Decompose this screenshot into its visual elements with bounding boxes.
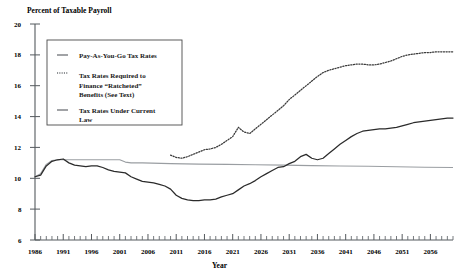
y-tick-label-20: 20 [14,21,22,29]
chart-container: Percent of Taxable Payroll 20 18 16 14 1… [0,0,459,275]
x-tick-label-2016: 2016 [197,248,212,256]
x-tick-label-2021: 2021 [226,248,241,256]
y-tick-label-6: 6 [18,237,22,245]
y-tick-label-14: 14 [14,113,22,121]
x-tick-label-2001: 2001 [113,248,128,256]
legend-label-ratcheted-line1: Tax Rates Required to [79,72,146,80]
x-tick-label-2051: 2051 [395,248,410,256]
y-tick-label-18: 18 [14,51,22,59]
legend-label-current-law-line1: Tax Rates Under Current [79,107,156,115]
x-axis-title: Year [212,261,228,270]
x-tick-label-1986: 1986 [28,248,43,256]
y-tick-label-10: 10 [14,175,22,183]
x-tick-label-2011: 2011 [169,248,183,256]
x-tick-label-2026: 2026 [254,248,269,256]
x-axis: 1986199119962001200620112016202120262031… [28,234,453,270]
y-tick-label-16: 16 [14,82,22,90]
x-tick-label-2036: 2036 [310,248,325,256]
x-tick-label-2056: 2056 [423,248,438,256]
x-tick-label-1996: 1996 [84,248,99,256]
x-tick-label-2041: 2041 [339,248,354,256]
x-axis-minor-ticks [35,234,453,240]
y-axis-title: Percent of Taxable Payroll [27,6,112,15]
legend-label-ratcheted-line2: Finance “Ratcheted” [79,82,142,90]
legend-label-ratcheted-line3: Benefits (See Text) [79,91,135,99]
x-tick-label-2046: 2046 [367,248,382,256]
x-tick-label-2006: 2006 [141,248,156,256]
legend-label-current-law-line2: Law [79,116,93,124]
x-tick-label-1991: 1991 [56,248,71,256]
series-ratcheted-benefits-line [171,52,453,158]
legend-label-pay-as-you-go: Pay-As-You-Go Tax Rates [79,52,157,60]
x-tick-label-2031: 2031 [282,248,297,256]
y-tick-label-8: 8 [18,206,22,214]
series-current-law-line [35,160,453,177]
tax-rate-line-chart: Percent of Taxable Payroll 20 18 16 14 1… [0,0,459,275]
y-axis: 20 18 16 14 12 10 8 6 [14,21,40,245]
x-axis-tick-labels: 1986199119962001200620112016202120262031… [28,248,438,256]
legend: Pay-As-You-Go Tax Rates Tax Rates Requir… [47,40,182,125]
y-tick-label-12: 12 [14,144,22,152]
